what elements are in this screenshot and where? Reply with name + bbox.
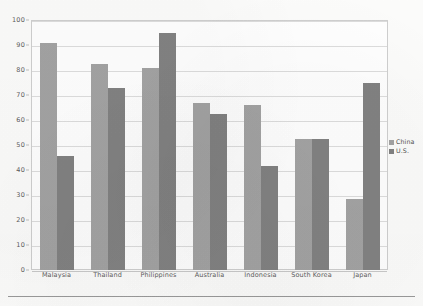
bar-china-malaysia [40,43,57,271]
y-tick-label-30: 30 [16,192,25,199]
bar-us-philippines [159,33,176,271]
x-axis: MalaysiaThailandPhilippinesAustraliaIndo… [31,272,388,286]
y-tick-label-50: 50 [16,142,25,149]
legend-swatch-icon [389,149,394,154]
bar-china-japan [346,199,363,270]
bar-us-indonesia [261,166,278,270]
y-tick-label-100: 100 [12,17,25,24]
bar-group-thailand [91,20,125,270]
chart-legend: ChinaU.S. [389,139,415,155]
legend-label: China [396,139,415,145]
x-tick-label-malaysia: Malaysia [42,272,71,279]
y-axis: 0102030405060708090100 [0,20,29,270]
bar-china-philippines [142,68,159,271]
x-tick-label-south-korea: South Korea [291,272,331,279]
y-tick-mark-30 [26,195,29,196]
y-tick-label-60: 60 [16,117,25,124]
legend-swatch-icon [389,140,394,145]
bar-group-south-korea [295,20,329,270]
legend-label: U.S. [396,148,409,154]
bar-china-south-korea [295,139,312,270]
y-tick-mark-60 [26,120,29,121]
y-tick-mark-0 [26,270,29,271]
x-tick-label-thailand: Thailand [93,272,122,279]
bar-china-indonesia [244,105,261,270]
bar-china-australia [193,103,210,271]
y-tick-mark-20 [26,220,29,221]
y-tick-label-90: 90 [16,42,25,49]
y-tick-label-40: 40 [16,167,25,174]
legend-entry-us[interactable]: U.S. [389,148,415,154]
bar-us-malaysia [57,156,74,270]
x-tick-label-philippines: Philippines [140,272,176,279]
y-tick-label-0: 0 [21,267,25,274]
y-tick-mark-10 [26,245,29,246]
y-tick-mark-40 [26,170,29,171]
x-tick-label-indonesia: Indonesia [244,272,276,279]
y-tick-mark-70 [26,95,29,96]
bar-group-indonesia [244,20,278,270]
bar-us-thailand [108,88,125,271]
bar-group-japan [346,20,380,270]
bar-group-philippines [142,20,176,270]
y-tick-mark-50 [26,145,29,146]
bar-us-australia [210,114,227,270]
y-tick-mark-80 [26,70,29,71]
bar-group-australia [193,20,227,270]
x-tick-label-australia: Australia [195,272,225,279]
y-tick-mark-100 [26,20,29,21]
y-tick-label-10: 10 [16,242,25,249]
bar-us-south-korea [312,139,329,270]
y-tick-label-80: 80 [16,67,25,74]
bottom-divider [8,296,415,297]
bar-group-malaysia [40,20,74,270]
legend-entry-china[interactable]: China [389,139,415,145]
bar-chart-figure: 0102030405060708090100 MalaysiaThailandP… [0,0,423,306]
y-tick-mark-90 [26,45,29,46]
bar-us-japan [363,83,380,271]
bars-layer [31,20,388,270]
y-tick-label-20: 20 [16,217,25,224]
x-tick-label-japan: Japan [353,272,372,279]
y-tick-label-70: 70 [16,92,25,99]
bar-china-thailand [91,64,108,270]
